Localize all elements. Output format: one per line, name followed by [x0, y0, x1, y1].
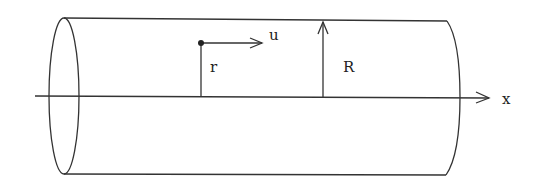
pipe-diagram: u r R x [0, 0, 543, 188]
label-x: x [502, 90, 511, 108]
label-R: R [343, 58, 355, 76]
label-u: u [269, 26, 279, 44]
x-axis [35, 96, 489, 98]
label-r: r [210, 58, 218, 76]
pipe-bottom-wall [64, 174, 446, 175]
pipe-top-wall [64, 18, 447, 21]
particle-dot [198, 40, 204, 46]
